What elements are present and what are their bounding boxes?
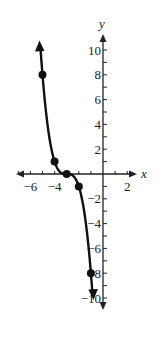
y-tick-label: 4 xyxy=(95,117,102,132)
x-tick-label: −4 xyxy=(48,179,62,194)
y-tick-label: 10 xyxy=(88,43,101,58)
y-axis-label: y xyxy=(97,16,105,31)
y-tick-label: 6 xyxy=(95,92,102,107)
data-point xyxy=(87,269,95,277)
x-tick-label: −6 xyxy=(23,179,37,194)
x-tick-label: 2 xyxy=(124,179,131,194)
axes xyxy=(16,34,137,310)
y-tick-label: −4 xyxy=(87,216,101,231)
y-tick-label: −2 xyxy=(87,191,101,206)
x-axis-left-arrow-icon xyxy=(16,171,24,178)
data-point xyxy=(75,182,83,190)
y-tick-label: 2 xyxy=(95,142,102,157)
arrow-up-icon xyxy=(35,41,45,52)
y-axis-up-arrow-icon xyxy=(100,34,107,42)
x-axis-right-arrow-icon xyxy=(129,171,137,178)
graph: xy−6−42108642−2−4−6−8−10 xyxy=(0,0,165,340)
data-point xyxy=(63,170,71,178)
data-point xyxy=(39,71,47,79)
data-point xyxy=(51,158,59,166)
x-axis-label: x xyxy=(140,166,147,181)
y-tick-label: 8 xyxy=(95,67,102,82)
